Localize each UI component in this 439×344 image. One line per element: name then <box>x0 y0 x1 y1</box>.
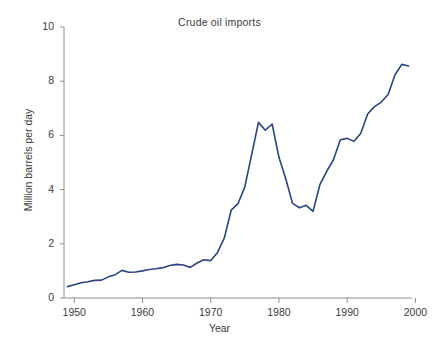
y-axis-ticks <box>60 27 64 298</box>
plot-area <box>0 0 439 344</box>
data-series-group <box>67 64 408 286</box>
x-axis-ticks <box>74 298 415 303</box>
axis-lines <box>64 27 412 298</box>
data-line-crude-oil-imports <box>67 64 408 286</box>
chart-figure: Crude oil imports Million barrels per da… <box>0 0 439 344</box>
